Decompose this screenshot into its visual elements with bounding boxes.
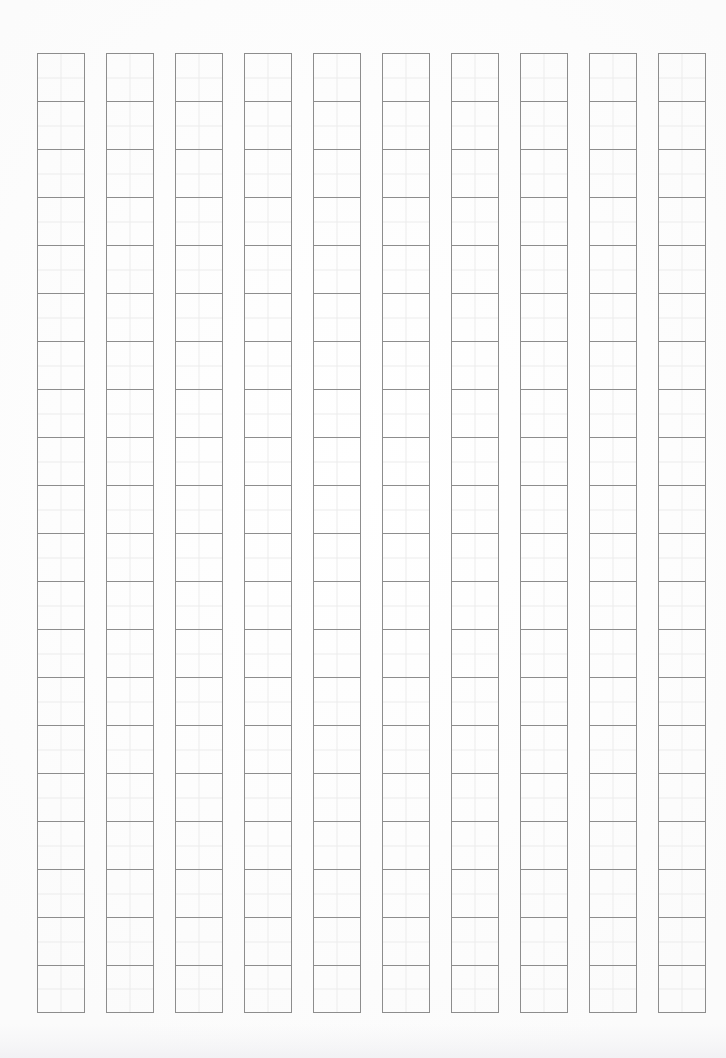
grid-cell[interactable]	[37, 581, 85, 629]
grid-cell[interactable]	[589, 53, 637, 101]
grid-cell[interactable]	[451, 101, 499, 149]
grid-cell[interactable]	[106, 677, 154, 725]
grid-cell[interactable]	[451, 773, 499, 821]
grid-cell[interactable]	[589, 149, 637, 197]
grid-cell[interactable]	[37, 533, 85, 581]
grid-cell[interactable]	[451, 197, 499, 245]
grid-cell[interactable]	[382, 197, 430, 245]
grid-cell[interactable]	[244, 389, 292, 437]
grid-cell[interactable]	[313, 773, 361, 821]
grid-cell[interactable]	[175, 437, 223, 485]
grid-cell[interactable]	[37, 245, 85, 293]
grid-cell[interactable]	[520, 965, 568, 1013]
grid-cell[interactable]	[313, 533, 361, 581]
grid-cell[interactable]	[106, 629, 154, 677]
grid-cell[interactable]	[382, 821, 430, 869]
grid-cell[interactable]	[175, 965, 223, 1013]
grid-cell[interactable]	[382, 245, 430, 293]
grid-cell[interactable]	[451, 53, 499, 101]
grid-cell[interactable]	[313, 821, 361, 869]
grid-cell[interactable]	[244, 725, 292, 773]
grid-cell[interactable]	[658, 149, 706, 197]
grid-cell[interactable]	[313, 485, 361, 533]
grid-cell[interactable]	[658, 677, 706, 725]
grid-cell[interactable]	[451, 869, 499, 917]
grid-column[interactable]	[520, 53, 568, 1013]
grid-cell[interactable]	[382, 581, 430, 629]
grid-cell[interactable]	[106, 341, 154, 389]
grid-cell[interactable]	[520, 389, 568, 437]
grid-cell[interactable]	[658, 917, 706, 965]
grid-cell[interactable]	[37, 341, 85, 389]
grid-cell[interactable]	[313, 581, 361, 629]
grid-cell[interactable]	[382, 437, 430, 485]
grid-cell[interactable]	[382, 533, 430, 581]
grid-cell[interactable]	[451, 389, 499, 437]
grid-cell[interactable]	[520, 149, 568, 197]
grid-cell[interactable]	[244, 773, 292, 821]
grid-cell[interactable]	[244, 821, 292, 869]
grid-cell[interactable]	[451, 581, 499, 629]
grid-cell[interactable]	[106, 53, 154, 101]
grid-cell[interactable]	[106, 197, 154, 245]
grid-cell[interactable]	[658, 53, 706, 101]
grid-cell[interactable]	[658, 629, 706, 677]
grid-cell[interactable]	[106, 485, 154, 533]
grid-cell[interactable]	[313, 197, 361, 245]
grid-cell[interactable]	[658, 245, 706, 293]
grid-column[interactable]	[244, 53, 292, 1013]
grid-cell[interactable]	[175, 629, 223, 677]
grid-cell[interactable]	[244, 581, 292, 629]
grid-cell[interactable]	[244, 101, 292, 149]
grid-cell[interactable]	[37, 197, 85, 245]
grid-cell[interactable]	[106, 917, 154, 965]
grid-cell[interactable]	[520, 869, 568, 917]
grid-column[interactable]	[382, 53, 430, 1013]
grid-cell[interactable]	[313, 869, 361, 917]
grid-cell[interactable]	[451, 533, 499, 581]
grid-cell[interactable]	[589, 533, 637, 581]
grid-cell[interactable]	[175, 917, 223, 965]
grid-cell[interactable]	[658, 869, 706, 917]
grid-cell[interactable]	[658, 485, 706, 533]
grid-cell[interactable]	[37, 485, 85, 533]
grid-cell[interactable]	[175, 389, 223, 437]
grid-cell[interactable]	[244, 965, 292, 1013]
grid-cell[interactable]	[244, 677, 292, 725]
grid-column[interactable]	[313, 53, 361, 1013]
grid-cell[interactable]	[175, 293, 223, 341]
grid-cell[interactable]	[37, 917, 85, 965]
grid-cell[interactable]	[451, 341, 499, 389]
grid-cell[interactable]	[589, 773, 637, 821]
grid-cell[interactable]	[520, 197, 568, 245]
grid-cell[interactable]	[37, 293, 85, 341]
grid-cell[interactable]	[451, 917, 499, 965]
grid-cell[interactable]	[382, 725, 430, 773]
grid-cell[interactable]	[37, 869, 85, 917]
grid-cell[interactable]	[589, 581, 637, 629]
grid-cell[interactable]	[175, 197, 223, 245]
grid-cell[interactable]	[658, 965, 706, 1013]
grid-cell[interactable]	[244, 245, 292, 293]
grid-cell[interactable]	[658, 533, 706, 581]
grid-cell[interactable]	[37, 821, 85, 869]
grid-cell[interactable]	[520, 773, 568, 821]
grid-cell[interactable]	[175, 533, 223, 581]
grid-cell[interactable]	[589, 917, 637, 965]
grid-cell[interactable]	[658, 293, 706, 341]
grid-cell[interactable]	[106, 245, 154, 293]
grid-cell[interactable]	[451, 293, 499, 341]
grid-cell[interactable]	[382, 677, 430, 725]
grid-cell[interactable]	[382, 293, 430, 341]
grid-cell[interactable]	[589, 965, 637, 1013]
grid-cell[interactable]	[37, 629, 85, 677]
grid-cell[interactable]	[313, 245, 361, 293]
grid-cell[interactable]	[313, 965, 361, 1013]
grid-cell[interactable]	[451, 437, 499, 485]
grid-cell[interactable]	[451, 629, 499, 677]
grid-cell[interactable]	[658, 389, 706, 437]
grid-cell[interactable]	[37, 389, 85, 437]
grid-cell[interactable]	[382, 965, 430, 1013]
grid-cell[interactable]	[244, 629, 292, 677]
grid-cell[interactable]	[520, 533, 568, 581]
